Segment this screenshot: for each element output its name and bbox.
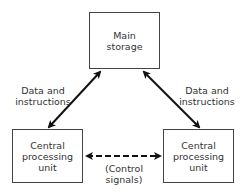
cpu-right-label: Central processing unit bbox=[173, 140, 224, 173]
edge-label-control: (Control signals) bbox=[92, 163, 156, 185]
cpu-left-box: Central processing unit bbox=[12, 129, 83, 183]
edge-label-left: Data and instructions bbox=[5, 85, 81, 107]
cpu-right-box: Central processing unit bbox=[163, 129, 234, 183]
main-storage-box: Main storage bbox=[89, 12, 160, 69]
edge-label-right: Data and instructions bbox=[169, 85, 245, 107]
main-storage-label: Main storage bbox=[106, 30, 142, 52]
cpu-left-label: Central processing unit bbox=[22, 140, 73, 173]
